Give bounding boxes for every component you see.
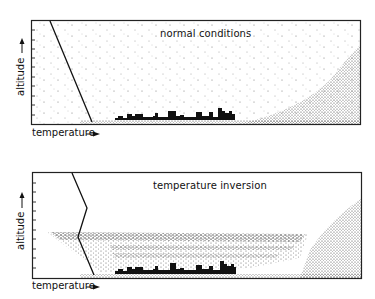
- x-axis-label: temperature: [32, 280, 95, 291]
- x-axis-label: temperature: [32, 127, 95, 138]
- altitude-ticks: [33, 183, 36, 268]
- panel-title: normal conditions: [160, 28, 251, 39]
- y-axis-label: altitude: [15, 212, 26, 250]
- panel-temperature-inversion: temperature inversion temperature altitu…: [0, 150, 375, 299]
- panel-normal-conditions: normal conditions temperature altitude: [0, 0, 375, 150]
- altitude-arrow-icon: [20, 192, 25, 208]
- hill: [300, 198, 362, 278]
- temperature-inversion-diagram: [0, 150, 375, 299]
- ground: [80, 120, 360, 124]
- panel-title: temperature inversion: [153, 180, 267, 191]
- ground: [80, 274, 362, 278]
- altitude-arrow-icon: [20, 38, 25, 53]
- y-axis-label: altitude: [15, 58, 26, 96]
